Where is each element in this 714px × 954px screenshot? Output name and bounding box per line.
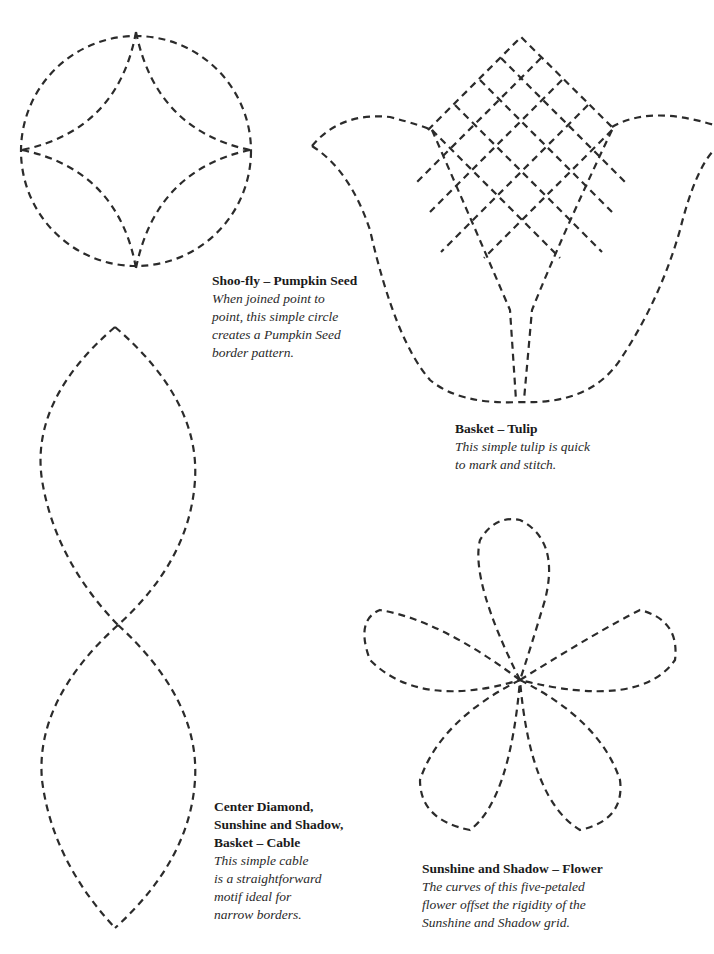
pumpkin-seed-title: Shoo-fly – Pumpkin Seed <box>212 272 357 290</box>
pumpkin-seed-caption: Shoo-fly – Pumpkin Seed When joined poin… <box>212 272 357 362</box>
cable-title-line: Basket – Cable <box>214 834 343 852</box>
cable-title-line: Sunshine and Shadow, <box>214 816 343 834</box>
quilting-patterns-artwork <box>0 0 714 954</box>
flower-desc-line: Sunshine and Shadow grid. <box>422 914 603 932</box>
cable-desc-line: This simple cable <box>214 852 343 870</box>
pumpkin-seed-desc-line: When joined point to <box>212 290 357 308</box>
tulip-desc-line: to mark and stitch. <box>455 456 590 474</box>
tulip-motif <box>312 37 714 402</box>
flower-motif <box>364 519 675 830</box>
pumpkin-seed-desc-line: border pattern. <box>212 344 357 362</box>
flower-desc-line: flower offset the rigidity of the <box>422 896 603 914</box>
tulip-desc-line: This simple tulip is quick <box>455 438 590 456</box>
cable-motif <box>41 327 196 928</box>
cable-caption: Center Diamond, Sunshine and Shadow, Bas… <box>214 798 343 924</box>
flower-desc-line: The curves of this five-petaled <box>422 878 603 896</box>
pumpkin-seed-motif <box>21 32 251 268</box>
flower-caption: Sunshine and Shadow – Flower The curves … <box>422 860 603 932</box>
pumpkin-seed-desc-line: creates a Pumpkin Seed <box>212 326 357 344</box>
tulip-caption: Basket – Tulip This simple tulip is quic… <box>455 420 590 474</box>
cable-desc-line: is a straightforward <box>214 870 343 888</box>
cable-title-line: Center Diamond, <box>214 798 343 816</box>
cable-desc-line: narrow borders. <box>214 906 343 924</box>
tulip-title: Basket – Tulip <box>455 420 590 438</box>
pumpkin-seed-desc-line: point, this simple circle <box>212 308 357 326</box>
cable-desc-line: motif ideal for <box>214 888 343 906</box>
flower-title: Sunshine and Shadow – Flower <box>422 860 603 878</box>
